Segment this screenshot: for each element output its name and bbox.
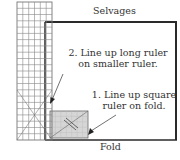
- step-2-line-1: 2. Line up long ruler: [62, 47, 174, 58]
- arrow-step-1: [88, 115, 116, 135]
- selvages-label: Selvages: [93, 5, 136, 16]
- step-1-line-2: ruler on fold.: [90, 100, 178, 111]
- fold-label: Fold: [100, 141, 121, 152]
- step-1-instruction: 1. Line up square ruler on fold.: [90, 89, 178, 111]
- square-ruler: [50, 111, 88, 138]
- step-1-line-1: 1. Line up square: [90, 89, 178, 100]
- step-2-line-2: on smaller ruler.: [62, 58, 174, 69]
- step-2-instruction: 2. Line up long ruler on smaller ruler.: [62, 47, 174, 69]
- fabric-folding-diagram: [0, 0, 180, 160]
